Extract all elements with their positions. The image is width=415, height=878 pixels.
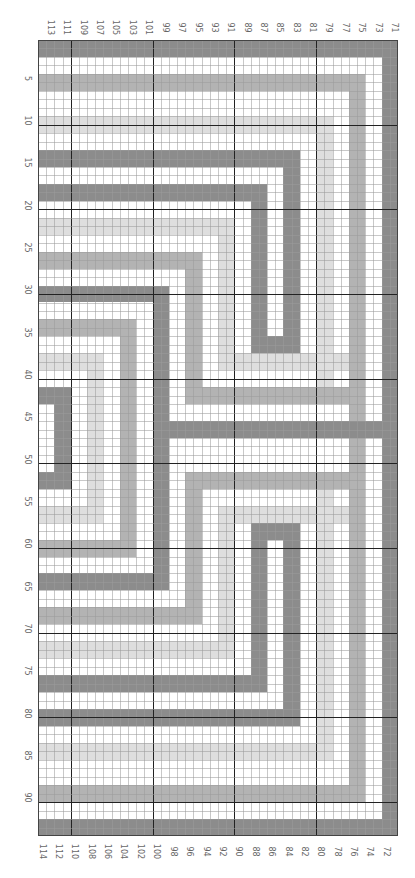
left-axis-label: 50 bbox=[23, 454, 32, 464]
top-axis-label: 87 bbox=[259, 22, 268, 32]
bottom-axis-label: 78 bbox=[332, 846, 341, 856]
bottom-axis-label: 74 bbox=[365, 846, 374, 856]
bottom-axis-label: 92 bbox=[218, 846, 227, 856]
left-axis-label: 65 bbox=[23, 581, 32, 591]
bottom-axis-label: 88 bbox=[250, 846, 259, 856]
top-axis-label: 107 bbox=[95, 19, 104, 34]
top-axis-label: 79 bbox=[324, 22, 333, 32]
top-axis-label: 91 bbox=[226, 22, 235, 32]
top-axis-label: 113 bbox=[46, 19, 55, 34]
left-axis-label: 45 bbox=[23, 412, 32, 422]
top-axis-label: 77 bbox=[340, 22, 349, 32]
bottom-axis-label: 86 bbox=[267, 846, 276, 856]
bottom-axis-label: 94 bbox=[201, 846, 210, 856]
bottom-axis-label: 98 bbox=[169, 846, 178, 856]
left-axis-label: 55 bbox=[23, 496, 32, 506]
bottom-axis-label: 84 bbox=[283, 846, 292, 856]
left-axis-label: 15 bbox=[23, 158, 32, 168]
top-axis-label: 85 bbox=[275, 22, 284, 32]
left-axis-label: 90 bbox=[23, 793, 32, 803]
top-axis-label: 99 bbox=[160, 22, 169, 32]
left-axis-label: 5 bbox=[23, 76, 32, 81]
top-axis-label: 81 bbox=[308, 22, 317, 32]
bottom-axis-label: 82 bbox=[300, 846, 309, 856]
top-axis-label: 83 bbox=[291, 22, 300, 32]
bottom-axis-label: 90 bbox=[234, 846, 243, 856]
bottom-axis-label: 72 bbox=[381, 846, 390, 856]
top-axis-label: 89 bbox=[242, 22, 251, 32]
left-axis-label: 10 bbox=[23, 115, 32, 125]
bottom-axis-label: 110 bbox=[70, 843, 79, 858]
bottom-axis-label: 96 bbox=[185, 846, 194, 856]
bottom-axis-label: 114 bbox=[38, 843, 47, 858]
top-axis-label: 105 bbox=[111, 19, 120, 34]
bottom-axis-label: 102 bbox=[136, 843, 145, 858]
knitting-chart-grid bbox=[38, 40, 398, 836]
left-axis-label: 35 bbox=[23, 327, 32, 337]
bottom-axis-label: 80 bbox=[316, 846, 325, 856]
left-axis-label: 30 bbox=[23, 285, 32, 295]
bottom-axis-label: 76 bbox=[349, 846, 358, 856]
left-axis-label: 20 bbox=[23, 200, 32, 210]
top-axis-label: 71 bbox=[390, 22, 399, 32]
bottom-axis-label: 104 bbox=[120, 843, 129, 858]
top-axis-label: 111 bbox=[62, 19, 71, 34]
chart-border bbox=[38, 40, 398, 836]
top-axis-label: 103 bbox=[128, 19, 137, 34]
top-axis-label: 93 bbox=[210, 22, 219, 32]
bottom-axis-label: 112 bbox=[54, 843, 63, 858]
left-axis-label: 80 bbox=[23, 708, 32, 718]
left-axis-label: 60 bbox=[23, 539, 32, 549]
top-axis-label: 101 bbox=[144, 19, 153, 34]
top-axis-label: 73 bbox=[373, 22, 382, 32]
bottom-axis-label: 108 bbox=[87, 843, 96, 858]
left-axis-label: 85 bbox=[23, 750, 32, 760]
left-axis-label: 75 bbox=[23, 666, 32, 676]
top-axis-label: 95 bbox=[193, 22, 202, 32]
bottom-axis-label: 106 bbox=[103, 843, 112, 858]
top-axis-label: 75 bbox=[357, 22, 366, 32]
left-axis-label: 70 bbox=[23, 623, 32, 633]
left-axis-label: 25 bbox=[23, 242, 32, 252]
left-axis-label: 40 bbox=[23, 369, 32, 379]
top-axis-label: 97 bbox=[177, 22, 186, 32]
top-axis-label: 109 bbox=[79, 19, 88, 34]
bottom-axis-label: 100 bbox=[152, 843, 161, 858]
